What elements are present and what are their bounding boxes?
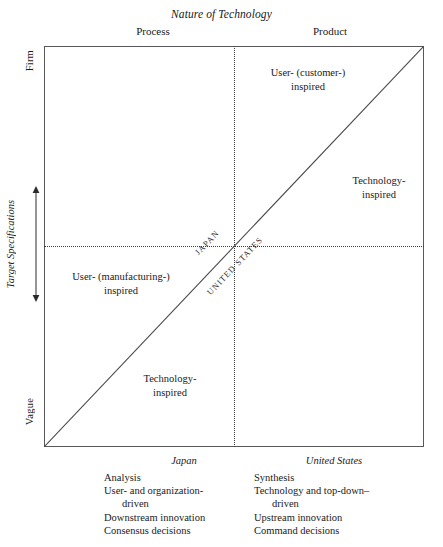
y-axis-bottom-label: Vague — [24, 398, 35, 425]
list-item: Technology and top-down– driven — [254, 484, 414, 510]
comparison-column-united-states: United States Synthesis Technology and t… — [254, 455, 414, 537]
list-item: Upstream innovation — [254, 511, 414, 524]
column-header-product: Product — [285, 25, 375, 37]
quadrant-label-technology-inspired-right: Technology- inspired — [336, 174, 422, 201]
y-axis-top-label: Firm — [24, 50, 35, 71]
quadrant-label-technology-inspired-bottom: Technology- inspired — [122, 372, 218, 399]
comparison-column-japan: Japan Analysis User- and organization- d… — [104, 455, 264, 537]
double-arrow-icon — [30, 186, 42, 302]
comparison-heading-united-states: United States — [254, 455, 414, 466]
list-item: Downstream innovation — [104, 511, 264, 524]
column-header-process: Process — [108, 25, 198, 37]
comparison-list-japan: Analysis User- and organization- driven … — [104, 471, 264, 537]
technology-nature-matrix-figure: Nature of Technology Process Product Fir… — [0, 0, 443, 547]
list-item: Consensus decisions — [104, 524, 264, 537]
comparison-heading-japan: Japan — [104, 455, 264, 466]
comparison-section: Japan Analysis User- and organization- d… — [0, 455, 443, 547]
list-item: Analysis — [104, 471, 264, 484]
quadrant-label-user-manufacturing-inspired: User- (manufacturing-) inspired — [46, 270, 196, 297]
figure-title: Nature of Technology — [0, 8, 443, 20]
y-axis-title: Target Specifications — [5, 200, 16, 288]
list-item: User- and organization- driven — [104, 484, 264, 510]
quadrant-label-user-customer-inspired: User- (customer-) inspired — [243, 66, 373, 93]
comparison-list-united-states: Synthesis Technology and top-down– drive… — [254, 471, 414, 537]
list-item: Synthesis — [254, 471, 414, 484]
list-item: Command decisions — [254, 524, 414, 537]
horizontal-divider-dotted — [44, 246, 424, 247]
